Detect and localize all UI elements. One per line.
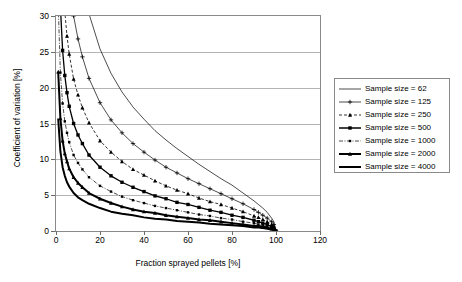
y-tick-label: 25: [25, 48, 49, 57]
series-marker: [131, 167, 135, 171]
legend: Sample size = 62Sample size = 125Sample …: [334, 78, 450, 173]
series-marker: [175, 171, 179, 175]
series-marker: [65, 91, 68, 94]
y-tick-label: 10: [25, 155, 49, 164]
legend-swatch: [338, 96, 362, 107]
series-marker: [219, 192, 223, 196]
series-marker: [66, 132, 68, 134]
series-marker: [98, 166, 101, 169]
series-marker: [241, 202, 245, 206]
series-marker: [256, 210, 260, 214]
series-marker: [261, 213, 265, 217]
legend-label: Sample size = 1000: [362, 137, 436, 145]
x-tick-label: 80: [217, 236, 247, 245]
series-marker: [80, 55, 84, 59]
series-marker: [63, 151, 67, 155]
series-marker: [252, 207, 256, 211]
legend-label: Sample size = 250: [362, 111, 431, 119]
series-marker: [63, 10, 67, 14]
x-tick-label: 120: [305, 236, 335, 245]
x-tick-label: 20: [85, 236, 115, 245]
series-marker: [176, 209, 178, 211]
legend-item[interactable]: Sample size = 4000: [338, 160, 447, 173]
y-tick-label: 5: [25, 191, 49, 200]
series-marker: [154, 205, 156, 207]
series-marker: [257, 220, 260, 223]
series-marker: [197, 206, 200, 209]
series-marker: [72, 122, 75, 125]
series-marker: [165, 207, 167, 209]
series-marker: [197, 182, 201, 186]
y-tick-label: 20: [25, 84, 49, 93]
series-marker: [99, 185, 101, 187]
series-line: [58, 0, 276, 231]
series-marker: [87, 121, 91, 125]
x-tick-mark: [276, 231, 277, 235]
series-marker: [67, 52, 71, 56]
series-marker: [208, 209, 211, 212]
series-marker: [230, 197, 234, 201]
series-line: [58, 0, 276, 231]
x-tick-label: 100: [261, 236, 291, 245]
series-marker: [256, 215, 260, 219]
series-marker: [153, 179, 157, 183]
series-marker: [265, 219, 269, 223]
legend-item[interactable]: Sample size = 125: [338, 95, 447, 108]
series-marker: [230, 214, 233, 217]
legend-swatch: [338, 148, 362, 159]
x-tick-mark: [56, 231, 57, 235]
series-marker: [76, 37, 80, 41]
series-marker: [153, 194, 156, 197]
legend-swatch: [338, 135, 362, 146]
legend-item[interactable]: Sample size = 62: [338, 82, 447, 95]
series-marker: [220, 217, 222, 219]
legend-item[interactable]: Sample size = 2000: [338, 147, 447, 160]
series-marker: [219, 202, 223, 206]
legend-item[interactable]: Sample size = 250: [338, 108, 447, 121]
series-marker: [87, 153, 90, 156]
x-tick-mark: [144, 231, 145, 235]
series-line: [58, 0, 276, 231]
x-tick-mark: [100, 231, 101, 235]
series-marker: [76, 133, 79, 136]
legend-swatch: [338, 122, 362, 133]
series-marker: [131, 186, 134, 189]
x-tick-mark: [232, 231, 233, 235]
series-marker: [68, 105, 71, 108]
legend-item[interactable]: Sample size = 500: [338, 121, 447, 134]
legend-swatch: [338, 109, 362, 120]
y-tick-mark: [51, 16, 55, 17]
x-tick-label: 40: [129, 236, 159, 245]
series-marker: [109, 174, 112, 177]
series-marker: [81, 168, 83, 170]
series-marker: [72, 154, 74, 156]
y-axis-title: Coefficient of variation [%]: [12, 38, 22, 198]
legend-label: Sample size = 125: [362, 98, 431, 106]
legend-swatch: [338, 83, 362, 94]
series-marker: [208, 199, 212, 203]
series-marker: [153, 158, 157, 162]
legend-label: Sample size = 2000: [362, 150, 436, 158]
legend-item[interactable]: Sample size = 1000: [338, 134, 447, 147]
series-marker: [121, 195, 123, 197]
series-marker: [87, 76, 91, 80]
series-marker: [252, 219, 255, 222]
plot-area: [55, 15, 321, 232]
series-marker: [61, 102, 63, 104]
x-tick-mark: [188, 231, 189, 235]
x-tick-label: 0: [41, 236, 71, 245]
series-marker: [72, 77, 76, 81]
series-line: [58, 0, 276, 231]
series-marker: [63, 74, 66, 77]
series-marker: [81, 142, 84, 145]
series-marker: [61, 49, 64, 52]
series-marker: [186, 176, 190, 180]
series-marker: [110, 190, 112, 192]
y-tick-mark: [51, 231, 55, 232]
series-marker: [198, 213, 200, 215]
y-tick-mark: [51, 124, 55, 125]
series-marker: [77, 162, 79, 164]
series-marker: [98, 139, 102, 143]
series-marker: [209, 215, 211, 217]
legend-swatch: [338, 161, 362, 172]
